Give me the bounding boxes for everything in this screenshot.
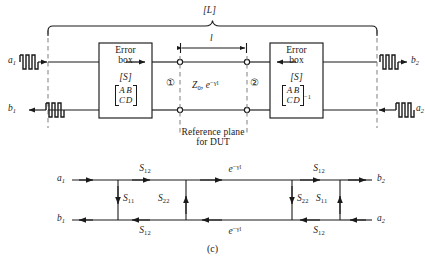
flow-node-a1: a1 [57, 174, 65, 185]
matrix-cell-d: D [293, 96, 300, 106]
right-error-box-abcd-matrix: AB CD −1 [270, 86, 323, 106]
flow-branch-vert-3: S22 [297, 194, 309, 205]
flow-branch-vert-1: S11 [123, 194, 134, 205]
flow-node-a2: a2 [377, 214, 385, 225]
left-error-box-title: Error box [101, 46, 150, 66]
port-marker-1: ① [166, 78, 175, 89]
matrix-cell-c: C [286, 96, 293, 106]
flow-node-b2: b2 [377, 174, 385, 185]
reference-plane-caption: Reference plane for DUT [158, 128, 268, 148]
flow-branch-vert-2: S22 [158, 194, 170, 205]
flow-branch-top-center: e−γl [212, 164, 258, 175]
left-error-box-s-label: [S] [101, 73, 150, 83]
matrix-cell-d: D [126, 96, 133, 106]
flow-branch-vert-4: S11 [316, 194, 327, 205]
port-marker-2: ② [250, 78, 259, 89]
wave-label-b1: b1 [8, 104, 16, 115]
flow-branch-bottom-left: S12 [122, 226, 168, 237]
flow-branch-top-right: S12 [296, 164, 342, 175]
overall-length-label: [L] [203, 6, 216, 16]
matrix-cell-c: C [119, 96, 126, 106]
flow-branch-top-left: S12 [122, 164, 168, 175]
reference-plane-caption-line2: for DUT [158, 138, 268, 148]
right-error-box-title: Error box [272, 46, 321, 66]
length-label: l [210, 34, 213, 44]
figure-root: a1 b1 b2 a2 [L] l Error box [S] AB CD Er… [0, 0, 425, 262]
left-error-box-abcd-matrix: AB CD [101, 86, 150, 106]
right-error-box-s-label: [S] [272, 73, 321, 83]
matrix-inverse-exponent: −1 [304, 93, 311, 100]
wave-label-a1: a1 [8, 56, 16, 67]
transmission-line-label: Z0, e−γl [192, 80, 219, 92]
flow-branch-bottom-center: e−γl [212, 226, 258, 237]
left-error-box-title-line2: box [101, 56, 150, 66]
right-error-box-title-line2: box [272, 56, 321, 66]
length-dimension-line [181, 43, 247, 53]
wave-label-b2: b2 [411, 56, 419, 67]
flow-node-b1: b1 [57, 214, 65, 225]
figure-caption: (c) [0, 243, 425, 254]
flow-branch-bottom-right: S12 [296, 226, 342, 237]
wave-label-a2: a2 [416, 104, 424, 115]
